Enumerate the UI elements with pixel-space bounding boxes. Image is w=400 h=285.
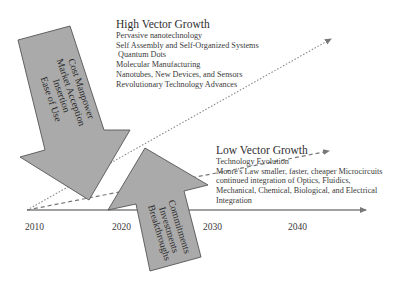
tick-2020: 2020 xyxy=(112,222,131,232)
high-vector-title: High Vector Growth xyxy=(116,17,259,31)
tick-2040: 2040 xyxy=(288,222,307,232)
low-vector-title: Low Vector Growth xyxy=(216,143,383,157)
high-vector-item: Revolutionary Technology Advances xyxy=(116,80,259,90)
high-vector-item: Pervasive nanotechnology xyxy=(116,31,259,41)
high-vector-item: Molecular Manufacturing xyxy=(116,60,259,70)
high-vector-item: Nanotubes, New Devices, and Sensors xyxy=(116,70,259,80)
low-vector-growth-block: Low Vector Growth Technology Evolution M… xyxy=(216,143,383,206)
low-vector-item: Technology Evolution xyxy=(216,157,383,167)
tick-2010: 2010 xyxy=(25,222,44,232)
low-vector-item: Moore's Law smaller, faster, cheaper Mic… xyxy=(216,167,383,177)
tick-2030: 2030 xyxy=(203,222,222,232)
low-vector-item: Mechanical, Chemical, Biological, and El… xyxy=(216,186,383,196)
high-vector-growth-block: High Vector Growth Pervasive nanotechnol… xyxy=(116,17,259,89)
high-vector-item: Self Assembly and Self-Organized Systems xyxy=(116,41,259,51)
high-vector-item: Quantum Dots xyxy=(116,50,259,60)
low-vector-item: Integration xyxy=(216,196,383,206)
low-vector-item: continued integration of Optics, Fluidic… xyxy=(216,176,383,186)
